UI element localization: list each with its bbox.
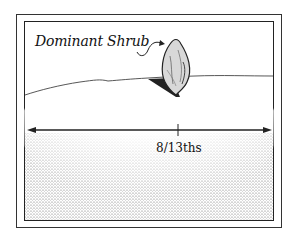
measurement-label: 8/13ths bbox=[156, 141, 202, 155]
dominant-shrub-label: Dominant Shrub bbox=[35, 33, 149, 49]
ground-shading bbox=[21, 46, 277, 220]
arrowhead-icon bbox=[159, 40, 165, 46]
